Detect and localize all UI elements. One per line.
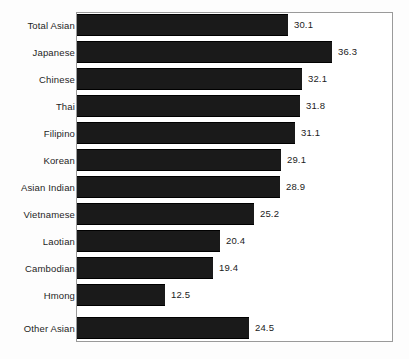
bar-value-label: 31.8: [300, 95, 325, 117]
bar: [77, 230, 220, 252]
bar-row: Cambodian 19.4: [0, 255, 409, 282]
category-label: Vietnamese: [24, 201, 76, 228]
category-label: Hmong: [44, 282, 75, 309]
category-label: Thai: [56, 93, 75, 120]
bar-track: 31.1: [77, 122, 409, 144]
bar-track: 12.5: [77, 284, 409, 306]
bar: [77, 284, 165, 306]
bar-row: Other Asian 24.5: [0, 315, 409, 342]
bar: [77, 317, 249, 339]
category-label: Filipino: [44, 120, 75, 147]
bar-row: Filipino 31.1: [0, 120, 409, 147]
bar-row: Thai 31.8: [0, 93, 409, 120]
bar: [77, 41, 332, 63]
bar: [77, 68, 302, 90]
bar: [77, 149, 281, 171]
bar: [77, 122, 295, 144]
bar-track: 19.4: [77, 257, 409, 279]
bar-value-label: 20.4: [220, 230, 245, 252]
bar: [77, 203, 254, 225]
bar-track: 36.3: [77, 41, 409, 63]
bar-track: 24.5: [77, 317, 409, 339]
bar-rows-container: Total Asian 30.1 Japanese 36.3 Chinese 3…: [0, 12, 409, 342]
category-label: Other Asian: [24, 315, 75, 342]
bar-value-label: 24.5: [249, 317, 274, 339]
category-label: Total Asian: [27, 12, 75, 39]
bar: [77, 14, 288, 36]
bar-track: 20.4: [77, 230, 409, 252]
category-label: Asian Indian: [21, 174, 75, 201]
bar-value-label: 25.2: [254, 203, 279, 225]
bar-chart-figure: Total Asian 30.1 Japanese 36.3 Chinese 3…: [0, 0, 409, 359]
bar-track: 29.1: [77, 149, 409, 171]
bar-row: Hmong 12.5: [0, 282, 409, 309]
bar-track: 31.8: [77, 95, 409, 117]
bar-row: Japanese 36.3: [0, 39, 409, 66]
bar-row: Vietnamese 25.2: [0, 201, 409, 228]
bar-row: Total Asian 30.1: [0, 12, 409, 39]
bar-value-label: 12.5: [165, 284, 190, 306]
bar-value-label: 29.1: [281, 149, 306, 171]
bar-value-label: 19.4: [213, 257, 238, 279]
bar-value-label: 28.9: [280, 176, 305, 198]
bar-track: 28.9: [77, 176, 409, 198]
bar-row: Korean 29.1: [0, 147, 409, 174]
bar-row: Asian Indian 28.9: [0, 174, 409, 201]
category-label: Japanese: [33, 39, 75, 66]
bar-track: 32.1: [77, 68, 409, 90]
bar-value-label: 31.1: [295, 122, 320, 144]
bar-row: Laotian 20.4: [0, 228, 409, 255]
bar-row: Chinese 32.1: [0, 66, 409, 93]
bar-track: 30.1: [77, 14, 409, 36]
category-label: Korean: [43, 147, 75, 174]
category-label: Chinese: [39, 66, 75, 93]
bar: [77, 95, 300, 117]
category-label: Laotian: [43, 228, 75, 255]
category-label: Cambodian: [25, 255, 75, 282]
bar-value-label: 36.3: [332, 41, 357, 63]
bar-value-label: 30.1: [288, 14, 313, 36]
bar-value-label: 32.1: [302, 68, 327, 90]
bar-track: 25.2: [77, 203, 409, 225]
bar: [77, 176, 280, 198]
bar: [77, 257, 213, 279]
